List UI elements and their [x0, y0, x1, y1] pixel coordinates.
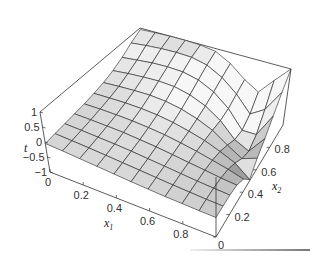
surface-plot: 10.50−0.5−100.20.40.60.800.20.40.60.8 t … [0, 0, 310, 261]
z-tick-label: 1 [31, 106, 37, 118]
x2-axis-label: x2 [271, 179, 281, 195]
x2-tick-label: 0.4 [248, 188, 263, 200]
x1-tick-label: 0.2 [74, 189, 89, 201]
x1-axis-label: x1 [103, 216, 113, 232]
z-tick-label: 0.5 [24, 121, 39, 133]
x1-tick-label: 0.6 [140, 215, 155, 227]
x2-tick-label: 0.2 [234, 211, 249, 223]
bottom-rule [190, 249, 310, 251]
x1-tick-label: 0 [45, 176, 51, 188]
x1-tick-label: 0.4 [107, 202, 122, 214]
x1-tick-label: 0.8 [173, 228, 188, 240]
z-tick-mark [50, 172, 53, 173]
z-tick-label: 0 [36, 136, 42, 148]
x2-tick-label: 0.8 [275, 143, 290, 155]
x2-tick-label: 0.6 [261, 166, 276, 178]
